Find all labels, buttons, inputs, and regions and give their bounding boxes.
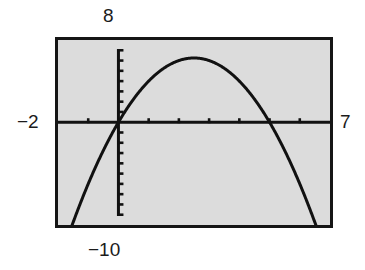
plot-canvas [58,40,330,225]
axes-group [58,49,330,216]
calculator-screenshot-figure: 8 −10 −2 7 [0,0,365,270]
calculator-graph-screen [55,37,333,228]
window-ymin-label: −10 [88,240,120,259]
parabola-curve [69,58,319,225]
window-ymax-label: 8 [103,6,114,25]
window-xmin-label: −2 [17,112,39,131]
window-xmax-label: 7 [340,112,351,131]
